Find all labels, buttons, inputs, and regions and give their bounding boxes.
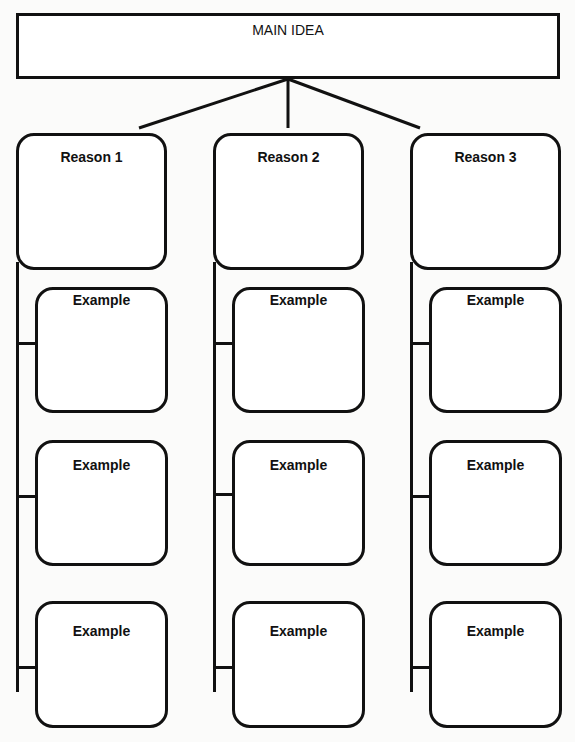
example-label: Example <box>73 623 131 639</box>
reason-2-example-3-box[interactable]: Example <box>232 601 365 728</box>
reason-1-example-2-box[interactable]: Example <box>35 440 168 566</box>
main-idea-label: MAIN IDEA <box>252 22 324 38</box>
reason-3-example-3-connector <box>410 666 430 669</box>
reason-3-label: Reason 3 <box>454 149 516 165</box>
reason-1-label: Reason 1 <box>60 149 122 165</box>
reason-3-example-1-box[interactable]: Example <box>429 287 562 413</box>
example-label: Example <box>467 623 525 639</box>
example-label: Example <box>467 292 525 308</box>
reason-3-box[interactable]: Reason 3 <box>410 133 561 270</box>
reason-1-example-3-box[interactable]: Example <box>35 601 168 728</box>
reason-3-example-3-box[interactable]: Example <box>429 601 562 728</box>
main-idea-box[interactable]: MAIN IDEA <box>16 13 560 79</box>
reason-2-example-2-box[interactable]: Example <box>232 440 365 566</box>
reason-2-spine <box>213 262 216 692</box>
reason-2-example-2-connector <box>213 493 233 496</box>
reason-2-label: Reason 2 <box>257 149 319 165</box>
reason-1-box[interactable]: Reason 1 <box>16 133 167 270</box>
reason-3-spine <box>410 262 413 692</box>
reason-1-example-1-box[interactable]: Example <box>35 287 168 413</box>
reason-1-spine <box>16 262 19 692</box>
reason-2-box[interactable]: Reason 2 <box>213 133 364 270</box>
reason-2-example-1-box[interactable]: Example <box>232 287 365 413</box>
reason-1-example-1-connector <box>16 342 36 345</box>
reason-2-example-1-connector <box>213 342 233 345</box>
reason-3-example-2-box[interactable]: Example <box>429 440 562 566</box>
reason-1-example-2-connector <box>16 495 36 498</box>
example-label: Example <box>467 457 525 473</box>
example-label: Example <box>270 623 328 639</box>
reason-3-example-2-connector <box>410 495 430 498</box>
example-label: Example <box>270 457 328 473</box>
example-label: Example <box>73 457 131 473</box>
example-label: Example <box>73 292 131 308</box>
reason-1-example-3-connector <box>16 666 36 669</box>
reason-3-example-1-connector <box>410 342 430 345</box>
reason-2-example-3-connector <box>213 666 233 669</box>
example-label: Example <box>270 292 328 308</box>
